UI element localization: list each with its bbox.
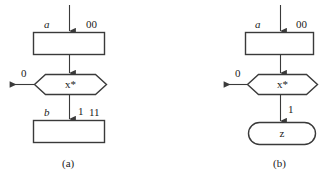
decision-text-a: x* [35, 79, 107, 90]
label-top-left-b: a [255, 19, 261, 30]
label-top-right-b: 00 [296, 19, 307, 30]
state-box-bottom-a [34, 121, 105, 143]
label-branch-zero-b: 0 [235, 68, 241, 79]
state-box-top-b [246, 33, 314, 55]
caption-b: (b) [273, 158, 286, 169]
label-top-left-a: a [44, 19, 50, 30]
caption-a: (a) [62, 158, 74, 169]
output-text-b: z [249, 128, 316, 139]
state-box-top-a [34, 33, 105, 55]
label-branch-one-b: 1 [288, 104, 294, 115]
label-bottom-left-a: b [44, 107, 50, 118]
decision-text-b: x* [248, 79, 318, 90]
label-branch-one-a: 1 [78, 106, 84, 117]
flowchart-figure: a 00 0 x* b 1 11 (a) a 00 0 x* 1 z (b) [0, 0, 332, 177]
label-top-right-a: 00 [86, 19, 97, 30]
label-bottom-right-a: 11 [89, 107, 100, 118]
label-branch-zero-a: 0 [21, 68, 27, 79]
